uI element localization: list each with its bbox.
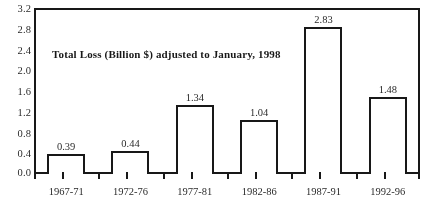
y-tick-label: 0.0: [3, 168, 31, 178]
bar-value-label: 0.39: [57, 141, 75, 152]
bar-chart: 3.2 2.8 2.4 2.0 1.6 1.2 0.8 0.4 0.0 0.39…: [0, 0, 429, 210]
y-tick-label: 1.6: [3, 87, 31, 97]
bar[interactable]: [176, 105, 214, 175]
y-axis: 3.2 2.8 2.4 2.0 1.6 1.2 0.8 0.4 0.0: [0, 0, 31, 210]
chart-title: Total Loss (Billion $) adjusted to Janua…: [52, 48, 281, 60]
bar-slot: 1.48: [356, 8, 420, 174]
y-tick-label: 2.8: [3, 25, 31, 35]
x-tick: [191, 172, 193, 179]
x-tick: [319, 172, 321, 179]
bar-value-label: 1.04: [250, 107, 268, 118]
x-tick: [418, 172, 420, 179]
bar[interactable]: [369, 97, 407, 174]
y-tick-label: 1.2: [3, 108, 31, 118]
bar-value-label: 2.83: [314, 14, 332, 25]
bar[interactable]: [240, 120, 278, 174]
y-tick-label: 3.2: [3, 4, 31, 14]
x-tick: [384, 172, 386, 179]
x-axis-label-1992-96: 1992-96: [370, 186, 405, 198]
x-tick: [34, 172, 36, 179]
bar-value-label: 0.44: [121, 138, 139, 149]
x-tick: [62, 172, 64, 179]
x-tick: [163, 172, 165, 179]
x-tick: [291, 172, 293, 179]
y-tick-label: 2.4: [3, 46, 31, 56]
bar[interactable]: [47, 154, 85, 174]
bar[interactable]: [304, 27, 342, 174]
bar-value-label: 1.48: [379, 84, 397, 95]
x-tick: [255, 172, 257, 179]
x-axis-label-1977-81: 1977-81: [177, 186, 212, 198]
bar-slot: 1.34: [163, 8, 227, 174]
bar-slot: 0.44: [98, 8, 162, 174]
y-tick-label: 2.0: [3, 66, 31, 76]
x-axis-label-1972-76: 1972-76: [113, 186, 148, 198]
x-tick: [356, 172, 358, 179]
x-tick: [227, 172, 229, 179]
x-axis-label-1967-71: 1967-71: [49, 186, 84, 198]
bar-slot: 0.39: [34, 8, 98, 174]
y-tick-label: 0.8: [3, 129, 31, 139]
x-axis-label-1987-91: 1987-91: [306, 186, 341, 198]
bars-layer: 0.39 0.44 1.34 1.04 2.83 1.48: [34, 8, 420, 174]
y-tick-label: 0.4: [3, 149, 31, 159]
bar-value-label: 1.34: [186, 92, 204, 103]
bar-slot: 1.04: [227, 8, 291, 174]
x-axis-label-1982-86: 1982-86: [242, 186, 277, 198]
x-tick: [126, 172, 128, 179]
bar-slot: 2.83: [291, 8, 355, 174]
bar[interactable]: [111, 151, 149, 174]
x-tick: [98, 172, 100, 179]
